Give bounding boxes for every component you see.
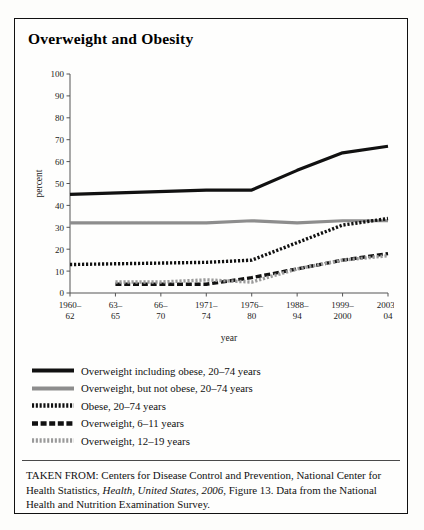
legend-item: Overweight including obese, 20–74 years <box>32 362 388 380</box>
x-tick-label: 1960– <box>59 300 82 310</box>
y-axis-label: percent <box>34 169 44 197</box>
x-tick-label: 94 <box>293 311 303 321</box>
x-tick-label: 80 <box>247 311 257 321</box>
legend-label: Overweight including obese, 20–74 years <box>81 365 261 377</box>
legend-swatch-dotted <box>32 435 74 446</box>
x-tick-label: 70 <box>156 311 166 321</box>
chart-svg: 0102030405060708090100percent1960–6263–6… <box>28 60 394 350</box>
x-tick-label: 62 <box>66 311 75 321</box>
legend-label: Overweight, 12–19 years <box>81 435 190 447</box>
series-line <box>115 254 388 285</box>
legend-item: Overweight, 12–19 years <box>32 432 388 450</box>
legend-swatch-dotted <box>32 400 74 411</box>
y-tick-label: 40 <box>55 201 65 211</box>
x-tick-label: 1988– <box>286 300 309 310</box>
legend-item: Overweight, but not obese, 20–74 years <box>32 380 388 398</box>
legend-swatch-solid <box>32 383 74 394</box>
legend-item: Overweight, 6–11 years <box>32 415 388 433</box>
series-line <box>70 221 388 223</box>
line-chart: 0102030405060708090100percent1960–6263–6… <box>28 60 394 350</box>
legend-label: Overweight, 6–11 years <box>81 417 184 429</box>
series-line <box>70 146 388 194</box>
legend-swatch-dashed <box>32 418 74 429</box>
y-tick-label: 50 <box>55 179 65 189</box>
section-divider <box>22 460 400 461</box>
x-tick-label: 1976– <box>240 300 263 310</box>
y-tick-label: 0 <box>60 288 65 298</box>
x-tick-label: 66– <box>154 300 168 310</box>
y-tick-label: 100 <box>51 69 65 79</box>
legend-item: Obese, 20–74 years <box>32 397 388 415</box>
figure-page: Overweight and Obesity 01020304050607080… <box>0 0 424 530</box>
source-note: TAKEN FROM: Centers for Disease Control … <box>26 468 398 512</box>
x-tick-label: 63– <box>109 300 123 310</box>
y-tick-label: 30 <box>55 223 65 233</box>
page-title: Overweight and Obesity <box>28 30 193 48</box>
x-axis-label: year <box>221 333 238 343</box>
y-tick-label: 70 <box>55 135 65 145</box>
y-tick-label: 10 <box>55 267 65 277</box>
series-line <box>70 219 388 265</box>
y-tick-label: 80 <box>55 113 65 123</box>
x-tick-label: 1971– <box>195 300 218 310</box>
x-tick-label: 2003– <box>377 300 394 310</box>
x-tick-label: 65 <box>111 311 121 321</box>
y-tick-label: 60 <box>55 157 65 167</box>
chart-legend: Overweight including obese, 20–74 yearsO… <box>32 362 388 450</box>
y-tick-label: 90 <box>55 91 65 101</box>
x-tick-label: 04 <box>384 311 394 321</box>
x-tick-label: 74 <box>202 311 212 321</box>
x-tick-label: 1999– <box>331 300 354 310</box>
x-tick-label: 2000 <box>334 311 353 321</box>
y-tick-label: 20 <box>55 245 65 255</box>
source-note-title: Health, United States, 2006 <box>103 484 224 496</box>
legend-swatch-solid <box>32 365 74 376</box>
legend-label: Overweight, but not obese, 20–74 years <box>81 382 253 394</box>
legend-label: Obese, 20–74 years <box>81 400 166 412</box>
